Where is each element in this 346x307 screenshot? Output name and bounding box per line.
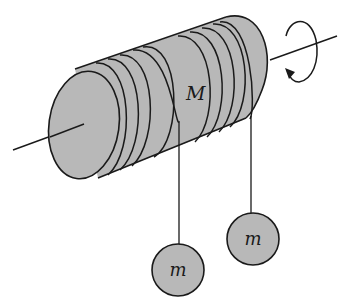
- drum-cylinder: [42, 16, 268, 183]
- circular-arrow-icon: [285, 22, 317, 83]
- hanging-mass-right: m: [227, 213, 279, 265]
- axle-right: [270, 36, 337, 60]
- drum-mass-label: M: [185, 82, 206, 104]
- hanging-mass-left: m: [152, 244, 204, 296]
- drum-diagram: M m m: [0, 0, 346, 307]
- hanging-mass-right-label: m: [244, 228, 261, 249]
- hanging-mass-left-label: m: [169, 259, 186, 280]
